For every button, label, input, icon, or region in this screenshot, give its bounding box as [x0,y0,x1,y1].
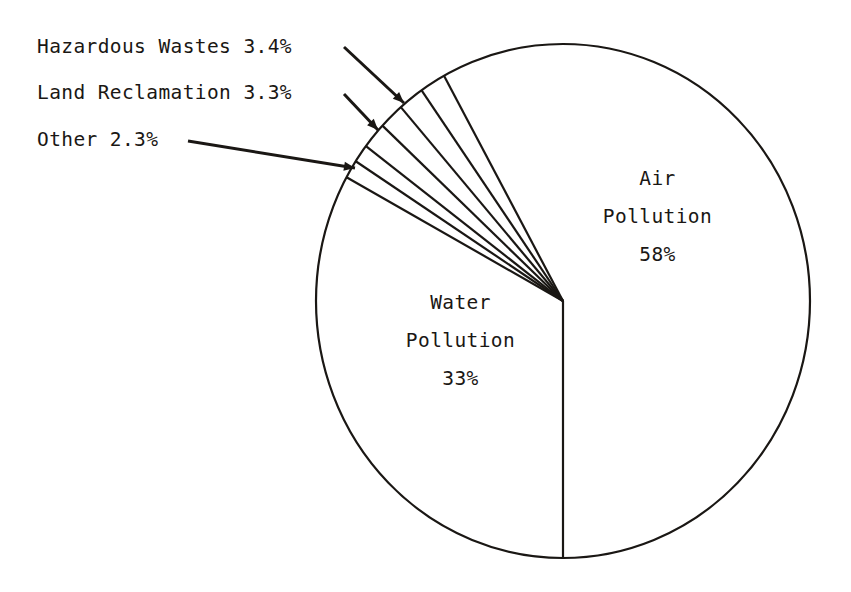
callout-label-land-reclamation: Land Reclamation 3.3% [37,83,292,103]
slice-label-air-pollution: Air Pollution 58% [565,160,750,274]
slice-label-water-line2: Pollution [368,322,553,360]
callout-leader-line-hazardous [344,47,404,103]
callout-label-other: Other 2.3% [37,130,158,150]
slice-label-water-pollution: Water Pollution 33% [368,284,553,398]
callout-leader-line-other [188,141,355,168]
pie-chart-figure: Hazardous Wastes 3.4% Land Reclamation 3… [0,0,851,592]
callout-label-hazardous-wastes: Hazardous Wastes 3.4% [37,37,292,57]
slice-label-air-line2: Pollution [565,198,750,236]
slice-label-water-line1: Water [368,284,553,322]
slice-label-air-line3: 58% [565,236,750,274]
slice-label-air-line1: Air [565,160,750,198]
slice-label-water-line3: 33% [368,360,553,398]
